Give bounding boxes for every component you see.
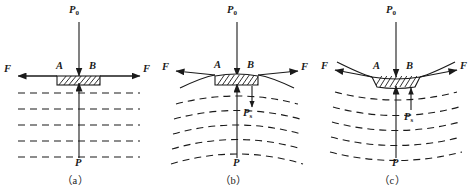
panel-b-convex-surface: P0 F F A B Ps P （b） bbox=[158, 0, 316, 190]
caption-c: （c） bbox=[379, 172, 405, 187]
surface-curve-right bbox=[420, 62, 455, 77]
physics-figure: P0 F F A B P （a） bbox=[0, 0, 475, 190]
force-label-left-c: F bbox=[321, 61, 328, 72]
p0-label-b: P0 bbox=[227, 5, 237, 16]
ps-label-c: Ps bbox=[404, 112, 413, 123]
caption-b: （b） bbox=[220, 172, 247, 187]
panel-c-concave-surface: P0 F F A B Ps P （c） bbox=[317, 0, 475, 190]
point-label-a-right: B bbox=[89, 61, 96, 72]
surface-curve-right bbox=[258, 75, 294, 88]
point-label-a-left: A bbox=[56, 61, 63, 72]
point-label-b-right: B bbox=[247, 60, 254, 71]
point-label-c-left: A bbox=[373, 61, 380, 72]
p0-label-c: P0 bbox=[386, 5, 396, 16]
point-label-c-right: B bbox=[406, 61, 413, 72]
force-arrow-left bbox=[176, 71, 215, 75]
surface-element-block bbox=[372, 74, 423, 90]
surface-element-block bbox=[215, 74, 265, 87]
force-label-left-a: F bbox=[4, 64, 11, 75]
force-label-right-c: F bbox=[460, 61, 467, 72]
surface-element-block bbox=[57, 75, 107, 86]
p-label-a: P bbox=[75, 158, 81, 169]
surface-curve-left bbox=[180, 75, 215, 88]
p-label-b: P bbox=[233, 158, 239, 169]
p-label-c: P bbox=[392, 158, 398, 169]
force-arrow-right bbox=[420, 70, 457, 77]
panel-a-flat-surface: P0 F F A B P （a） bbox=[0, 0, 158, 190]
force-label-right-a: F bbox=[143, 64, 150, 75]
force-arrow-right bbox=[258, 71, 298, 75]
ps-label-b: Ps bbox=[243, 108, 252, 119]
force-label-left-b: F bbox=[162, 62, 169, 73]
surface-curve-left bbox=[337, 62, 372, 77]
caption-a: （a） bbox=[62, 172, 88, 187]
force-arrow-left bbox=[335, 70, 372, 77]
force-label-right-b: F bbox=[301, 62, 308, 73]
p0-label-a: P0 bbox=[69, 5, 79, 16]
point-label-b-left: A bbox=[214, 60, 221, 71]
